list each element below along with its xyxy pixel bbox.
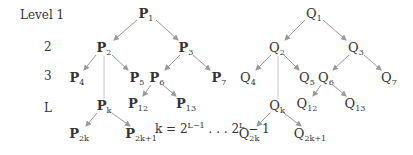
formula-prefix: k = 2 xyxy=(155,122,188,136)
node-q-1: Q1 xyxy=(306,7,322,23)
node-q-13: Q13 xyxy=(345,97,366,113)
node-q-12: Q12 xyxy=(297,97,318,113)
node-q-7: Q7 xyxy=(381,71,397,87)
edge-arrow xyxy=(114,20,137,40)
formula-mid: . . . 2 xyxy=(205,122,239,136)
node-p-13: P13 xyxy=(176,97,196,113)
edge-arrow xyxy=(256,55,271,70)
node-p-7: P7 xyxy=(212,71,227,87)
edge-arrow xyxy=(112,113,130,126)
edge-arrow xyxy=(333,55,349,70)
node-q-k: Qk xyxy=(269,99,285,115)
level-label: L xyxy=(44,102,52,114)
node-p-6: P6 xyxy=(150,71,165,87)
edge-arrow xyxy=(285,20,305,40)
node-p-5: P5 xyxy=(130,71,145,87)
edge-arrow xyxy=(284,55,299,70)
level-label: 2 xyxy=(44,41,52,53)
node-p-k: Pk xyxy=(97,99,112,115)
level-label: 3 xyxy=(44,70,52,82)
node-p-4: P4 xyxy=(70,71,85,87)
formula-exponent-1: L−1 xyxy=(188,121,205,130)
node-p-2: P2 xyxy=(97,41,112,57)
node-q-5: Q5 xyxy=(299,71,315,87)
edge-arrow xyxy=(165,55,180,70)
edge-arrow xyxy=(193,55,210,70)
node-q-2k1: Q2k+1 xyxy=(294,127,326,143)
node-p-2k: P2k xyxy=(69,127,89,143)
node-q-2: Q2 xyxy=(269,41,285,57)
node-q-4: Q4 xyxy=(240,71,256,87)
edge-arrow xyxy=(163,85,176,96)
edge-arrow xyxy=(156,20,178,40)
node-p-3: P3 xyxy=(179,41,194,57)
edge-arrow xyxy=(284,113,301,126)
edge-arrow xyxy=(364,55,381,70)
level-label: Level 1 xyxy=(20,9,64,21)
edge-arrow xyxy=(84,55,96,70)
edge-arrow xyxy=(323,20,346,40)
edge-arrow xyxy=(112,55,128,70)
edge-arrow xyxy=(333,85,346,96)
formula-suffix: − 1 xyxy=(244,122,269,136)
edge-arrow xyxy=(86,113,97,126)
tree-diagram: Level 123L P1P2P3P4P5P6P7PkP12P13P2kP2k+… xyxy=(0,0,413,155)
node-q-6: Q6 xyxy=(318,71,334,87)
node-p-12: P12 xyxy=(128,97,148,113)
index-formula: k = 2L−1 . . . 2L − 1 xyxy=(155,122,270,135)
node-p-1: P1 xyxy=(139,7,154,23)
node-p-2k1: P2k+1 xyxy=(125,127,157,143)
node-q-3: Q3 xyxy=(348,41,364,57)
